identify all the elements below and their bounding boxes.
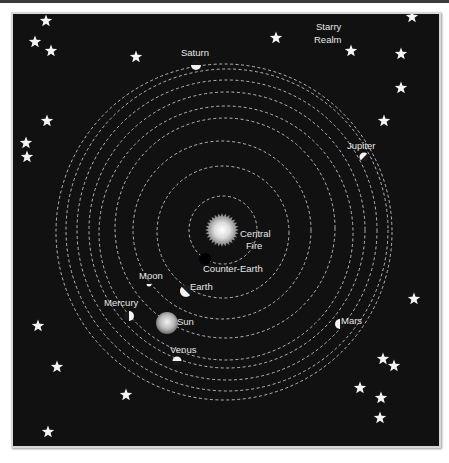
starry-realm-label-line2: Realm — [314, 34, 342, 45]
star-icon — [41, 115, 53, 127]
star-icon — [120, 389, 132, 401]
sun-icon — [156, 312, 178, 334]
star-icon — [388, 360, 400, 372]
star-icon — [40, 15, 52, 27]
venus-icon — [173, 357, 182, 366]
star-icon — [406, 11, 418, 23]
sun-label: Sun — [177, 316, 194, 327]
star-icon — [378, 115, 390, 127]
earth-label: Earth — [190, 281, 213, 292]
star-icon — [408, 293, 420, 305]
moon-icon — [147, 282, 152, 287]
star-icon — [345, 45, 357, 57]
star-icon — [395, 82, 407, 94]
star-icon — [270, 32, 282, 44]
star-icon — [42, 426, 54, 438]
central-fire-label-line2: Fire — [246, 240, 262, 251]
star-icon — [395, 48, 407, 60]
saturn-label: Saturn — [181, 47, 209, 58]
starry-realm-label-line1: Starry — [316, 21, 342, 32]
venus-label: Venus — [170, 344, 197, 355]
star-icon — [45, 45, 57, 57]
star-icon — [51, 361, 63, 373]
star-icon — [354, 382, 366, 394]
star-icon — [375, 392, 387, 404]
star-icon — [130, 51, 142, 63]
central-fire-label-line1: Central — [240, 228, 271, 239]
central-fire — [205, 213, 239, 247]
star-icon — [29, 36, 41, 48]
jupiter-icon — [359, 152, 368, 161]
star-icon — [21, 151, 33, 163]
star-icon — [377, 353, 389, 365]
counter-earth-label: Counter-Earth — [203, 263, 263, 274]
star-icon — [32, 320, 44, 332]
cosmos-diagram: Central Fire Counter-Earth Moon Earth Me… — [0, 0, 449, 463]
star-icon — [20, 137, 32, 149]
mercury-label: Mercury — [104, 297, 139, 308]
jupiter-label: Jupiter — [347, 140, 376, 151]
mars-label: Mars — [341, 315, 362, 326]
central-fire-icon — [205, 213, 239, 247]
mercury-icon — [124, 311, 134, 321]
moon-label: Moon — [139, 270, 163, 281]
star-icon — [374, 412, 386, 424]
saturn-icon — [191, 60, 201, 70]
